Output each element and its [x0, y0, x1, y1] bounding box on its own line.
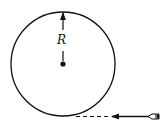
- diagram-svg: [0, 0, 167, 128]
- radius-label: R: [57, 33, 66, 47]
- center-point: [60, 61, 65, 66]
- diagram-canvas: R: [0, 0, 167, 128]
- projectile: [148, 114, 159, 119]
